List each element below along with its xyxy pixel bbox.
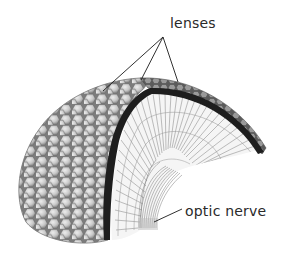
compound-eye-diagram — [0, 0, 282, 265]
lenses-label: lenses — [170, 15, 216, 31]
optic-nerve-leader-line — [154, 209, 182, 222]
optic-nerve-label: optic nerve — [185, 203, 266, 219]
